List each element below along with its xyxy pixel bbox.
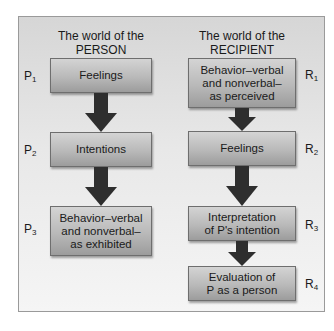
person-step-p1-text: Feelings (79, 69, 122, 82)
recipient-step-r1-line1: Behavior–verbal (200, 64, 283, 77)
recipient-step-r3-line2: of P's intention (204, 224, 279, 237)
recipient-step-r2-box: Feelings (188, 131, 296, 166)
recipient-step-r1-label: R1 (305, 68, 318, 83)
person-column-title: The world of the PERSON (36, 29, 166, 57)
recipient-step-r4-line2: P as a person (207, 284, 278, 297)
person-step-p3-label: P3 (24, 222, 36, 237)
recipient-step-r1-line2: and nonverbal– (202, 77, 281, 90)
arrow-down-icon (225, 108, 259, 132)
person-step-p2-text: Intentions (76, 143, 126, 156)
arrow-down-icon (84, 93, 118, 133)
arrow-down-icon (225, 241, 259, 267)
person-step-p3-line1: Behavior–verbal (59, 212, 142, 225)
recipient-step-r4-label: R4 (305, 277, 318, 292)
person-step-p2-label: P2 (24, 143, 36, 158)
recipient-step-r3-box: Interpretation of P's intention (188, 206, 296, 241)
person-title-line1: The world of the (36, 29, 166, 43)
recipient-step-r1-box: Behavior–verbal and nonverbal– as percei… (188, 58, 296, 108)
recipient-title-line1: The world of the (177, 29, 307, 43)
person-step-p3-line2: and nonverbal– (61, 225, 140, 238)
person-step-p3-line3: as exhibited (70, 238, 131, 251)
recipient-step-r2-label: R2 (305, 142, 318, 157)
person-step-p1-box: Feelings (50, 58, 152, 93)
arrow-down-icon (84, 167, 118, 207)
recipient-step-r4-box: Evaluation of P as a person (188, 266, 296, 301)
person-step-p1-label: P1 (24, 69, 36, 84)
recipient-step-r1-line3: as perceived (209, 90, 274, 103)
person-step-p3-box: Behavior–verbal and nonverbal– as exhibi… (50, 206, 152, 256)
recipient-step-r2-text: Feelings (220, 142, 263, 155)
recipient-step-r4-line1: Evaluation of (209, 271, 276, 284)
person-title-line2: PERSON (36, 43, 166, 57)
recipient-column-title: The world of the RECIPIENT (177, 29, 307, 57)
recipient-step-r3-line1: Interpretation (208, 211, 276, 224)
arrow-down-icon (225, 166, 259, 207)
person-step-p2-box: Intentions (50, 132, 152, 167)
recipient-title-line2: RECIPIENT (177, 43, 307, 57)
recipient-step-r3-label: R3 (305, 218, 318, 233)
